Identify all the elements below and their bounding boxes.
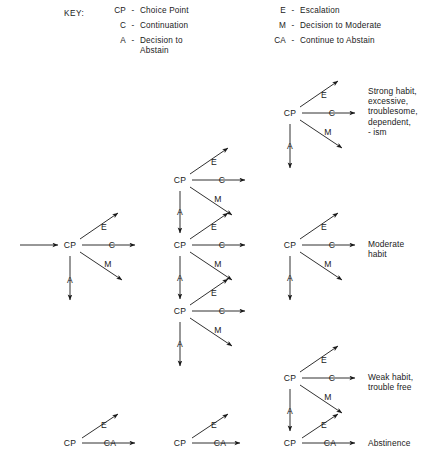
branch-moderate-right-2: M: [324, 259, 331, 269]
branch-abstain-root: A: [67, 275, 73, 285]
branch-escalation-right-2: E: [321, 222, 327, 232]
node-cp-mid-2[interactable]: CP: [174, 240, 186, 250]
outcome-strong-habit: Strong habit, excessive, troublesome, de…: [368, 86, 418, 137]
branch-escalation-mid-2: E: [211, 222, 217, 232]
branch-escalation-abstain-mid: E: [211, 420, 217, 430]
decision-tree-edges: [0, 0, 445, 470]
branch-moderate-mid-3: M: [214, 325, 221, 335]
node-cp-right-1[interactable]: CP: [284, 108, 296, 118]
branch-continuation-mid-1: C: [219, 175, 225, 185]
branch-escalation-mid-1: E: [211, 157, 217, 167]
outcome-weak-habit: Weak habit, trouble free: [368, 372, 413, 392]
node-cp-mid-1[interactable]: CP: [174, 175, 186, 185]
branch-continue-abstain-right: CA: [324, 438, 336, 448]
branch-continuation-root: C: [109, 240, 115, 250]
node-cp-mid-3[interactable]: CP: [174, 306, 186, 316]
branch-abstain-right-3: A: [287, 406, 293, 416]
outcome-abstinence: Abstinence: [368, 438, 410, 448]
branch-abstain-right-2: A: [287, 273, 293, 283]
branch-escalation-right-3: E: [321, 355, 327, 365]
branch-escalation-mid-3: E: [211, 288, 217, 298]
node-cp-abstain-mid[interactable]: CP: [174, 438, 186, 448]
branch-abstain-mid-3: A: [177, 339, 183, 349]
branch-escalation-right-1: E: [321, 90, 327, 100]
branch-escalation-abstain-left: E: [101, 420, 107, 430]
node-cp-abstain-left[interactable]: CP: [64, 438, 76, 448]
branch-continue-abstain-left: CA: [104, 438, 116, 448]
node-cp-right-3[interactable]: CP: [284, 373, 296, 383]
branch-continuation-right-3: C: [329, 373, 335, 383]
branch-abstain-mid-1: A: [177, 207, 183, 217]
branch-abstain-mid-2: A: [177, 273, 183, 283]
branch-escalation-root: E: [101, 222, 107, 232]
branch-abstain-right-1: A: [287, 141, 293, 151]
branch-continuation-right-1: C: [329, 108, 335, 118]
outcome-moderate-habit: Moderate habit: [368, 239, 404, 259]
branch-continuation-mid-2: C: [219, 240, 225, 250]
node-cp-root[interactable]: CP: [64, 240, 76, 250]
node-cp-abstain-right[interactable]: CP: [284, 438, 296, 448]
branch-continuation-right-2: C: [329, 240, 335, 250]
branch-moderate-right-3: M: [324, 392, 331, 402]
branch-moderate-mid-2: M: [214, 259, 221, 269]
node-cp-right-2[interactable]: CP: [284, 240, 296, 250]
branch-moderate-root: M: [104, 259, 111, 269]
branch-escalation-abstain-right: E: [321, 420, 327, 430]
branch-continuation-mid-3: C: [219, 306, 225, 316]
branch-continue-abstain-mid: CA: [214, 438, 226, 448]
branch-moderate-mid-1: M: [214, 194, 221, 204]
diagram-page: KEY: CP - Choice Point C - Continuation …: [0, 0, 445, 470]
branch-moderate-right-1: M: [324, 127, 331, 137]
